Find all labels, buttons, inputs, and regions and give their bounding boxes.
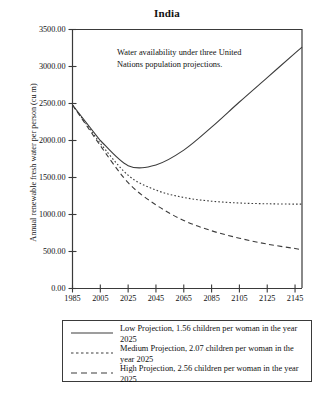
y-tick-label: 1000.00	[18, 211, 66, 219]
axis-ticks	[69, 30, 296, 293]
legend-label-medium-line1: Medium Projection, 2.07 children per wom…	[120, 344, 273, 353]
legend-label-medium: Medium Projection, 2.07 children per wom…	[120, 343, 310, 365]
legend-sample-dotted	[71, 349, 113, 357]
chart-figure: India Annual renewable fresh water per p…	[0, 0, 334, 406]
legend-item-low: Low Projection, 1.56 children per woman …	[63, 324, 313, 343]
data-series	[73, 47, 303, 249]
series-line-high	[73, 105, 303, 250]
legend-sample-solid	[71, 329, 113, 337]
legend-label-low-line1: Low Projection, 1.56 children per woman …	[120, 324, 268, 333]
chart-legend: Low Projection, 1.56 children per woman …	[62, 320, 312, 382]
legend-label-high: High Projection, 2.56 children per woman…	[120, 363, 310, 385]
legend-item-high: High Projection, 2.56 children per woman…	[63, 364, 313, 383]
y-tick-label: 3000.00	[18, 63, 66, 71]
x-tick-label: 2145	[278, 295, 312, 303]
legend-label-low: Low Projection, 1.56 children per woman …	[120, 323, 310, 345]
legend-label-high-line1: High Projection, 2.56 children per woman	[120, 364, 261, 373]
y-tick-label: 500.00	[18, 248, 66, 256]
y-tick-label: 3500.00	[18, 26, 66, 34]
y-tick-label: 0.00	[18, 285, 66, 293]
y-tick-label: 2500.00	[18, 100, 66, 108]
legend-item-medium: Medium Projection, 2.07 children per wom…	[63, 344, 313, 363]
y-tick-label: 1500.00	[18, 174, 66, 182]
y-tick-label: 2000.00	[18, 137, 66, 145]
series-line-low	[73, 47, 303, 168]
axis-lines	[72, 29, 302, 289]
legend-sample-dashed	[71, 369, 113, 377]
